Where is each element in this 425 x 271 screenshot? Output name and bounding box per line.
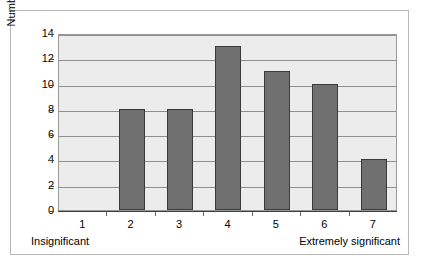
bar[interactable] [119, 109, 145, 210]
y-axis-tick-mark [49, 186, 54, 187]
x-axis-tick-label: 5 [252, 217, 300, 231]
x-axis-tick-label: 4 [203, 217, 251, 231]
bar-slot [253, 35, 301, 210]
bar-slot [59, 35, 107, 210]
x-axis-tick-label: 7 [349, 217, 397, 231]
bar[interactable] [264, 71, 290, 210]
bar-slot [301, 35, 349, 210]
x-axis-anchor-captions: Insignificant Extremely significant [31, 233, 400, 249]
x-axis-tick-label: 6 [300, 217, 348, 231]
y-axis-title: Number of responses [5, 0, 19, 53]
x-axis-tick-mark [203, 212, 204, 216]
x-axis-tick-mark [349, 212, 350, 216]
y-axis-tick-mark [49, 160, 54, 161]
x-axis-line [58, 211, 397, 212]
x-axis-tick-mark [155, 212, 156, 216]
y-axis-tick-mark [49, 135, 54, 136]
x-axis-tick-label: 3 [155, 217, 203, 231]
y-axis-tick-mark [49, 34, 54, 35]
bar[interactable] [215, 46, 241, 210]
bar[interactable] [167, 109, 193, 210]
bar-slot [156, 35, 204, 210]
x-axis-tick-mark [106, 212, 107, 216]
bar-slot [204, 35, 252, 210]
x-axis-tick-label: 2 [106, 217, 154, 231]
y-axis-tick-labels: 02468101214 [25, 34, 54, 211]
y-axis-tick-mark [49, 110, 54, 111]
x-axis-tick-labels: 1234567 [58, 217, 397, 233]
y-axis-tick-mark [49, 85, 54, 86]
x-axis-right-anchor-label: Extremely significant [299, 234, 400, 248]
x-axis-tick-mark [252, 212, 253, 216]
x-axis-left-anchor-label: Insignificant [31, 234, 89, 248]
y-axis-tick-mark [49, 59, 54, 60]
x-axis-tick-mark [300, 212, 301, 216]
bar[interactable] [312, 84, 338, 210]
chart-figure-frame: Number of responses 02468101214 1234567 … [10, 10, 409, 255]
x-axis-tick-label: 1 [58, 217, 106, 231]
bar-slot [350, 35, 398, 210]
plot-area [58, 34, 397, 211]
y-axis-tick-mark [49, 211, 54, 212]
bar[interactable] [361, 159, 387, 210]
bar-slot [107, 35, 155, 210]
